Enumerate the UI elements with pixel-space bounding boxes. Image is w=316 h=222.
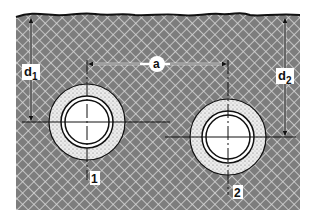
label-a: a bbox=[153, 57, 160, 71]
pipe-1-label: 1 bbox=[90, 171, 100, 186]
pipe-2-label: 2 bbox=[233, 185, 243, 200]
pipes-diagram: d1 d2 a 1 2 bbox=[0, 0, 316, 222]
svg-text:2: 2 bbox=[234, 186, 241, 200]
svg-text:1: 1 bbox=[91, 172, 98, 186]
